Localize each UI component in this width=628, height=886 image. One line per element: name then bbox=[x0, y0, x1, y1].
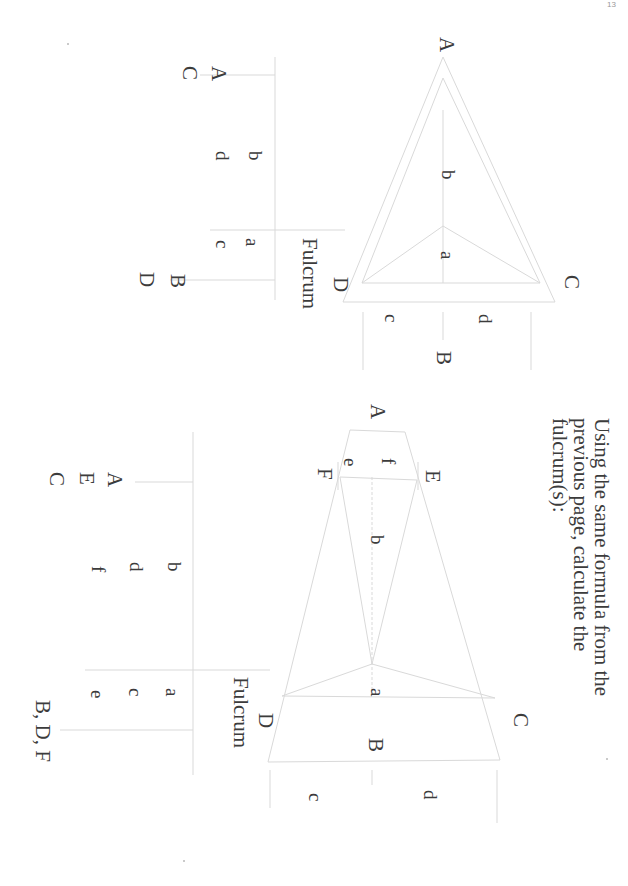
fig2-vertex-B: B bbox=[365, 738, 386, 752]
fig1-vertex-C: C bbox=[561, 275, 582, 289]
fig2-vertex-D: D bbox=[255, 713, 276, 728]
instruction-line-1: Using the same formula from the bbox=[591, 418, 612, 678]
fig1-table-right-top: a bbox=[243, 238, 262, 246]
fig2-table-right-r1: a bbox=[163, 688, 182, 696]
fig1-table-row-A: A bbox=[208, 66, 229, 81]
instruction-line-2: previous page, calculate the bbox=[570, 418, 591, 678]
fig2-table-row-C: C bbox=[46, 472, 67, 486]
fig2-segment-d: d bbox=[421, 790, 440, 800]
fig2-segment-a: a bbox=[368, 688, 387, 696]
fig1-table-right-bottom: c bbox=[213, 240, 232, 248]
fig1-table-row-C: C bbox=[179, 66, 200, 80]
fig2-table-right-r3: e bbox=[88, 690, 107, 698]
fig2-segment-c: c bbox=[306, 793, 325, 801]
instruction-text: Using the same formula from the previous… bbox=[549, 418, 612, 678]
fig2-table-left-r3: f bbox=[89, 566, 108, 572]
fig1-table-left-bottom: d bbox=[213, 151, 232, 161]
fig2-table-right-r2: c bbox=[126, 688, 145, 696]
figure2-trapezoid bbox=[268, 430, 500, 762]
scan-speck bbox=[183, 860, 185, 862]
fig2-table-left-r2: d bbox=[127, 562, 146, 572]
fig2-segment-f: f bbox=[379, 458, 398, 464]
fig1-table-result-B: B bbox=[167, 274, 188, 288]
fig1-table-result-D: D bbox=[136, 272, 157, 287]
instruction-line-3: fulcrum(s): bbox=[549, 418, 570, 678]
scan-speck bbox=[67, 43, 69, 45]
fig2-segment-b: b bbox=[368, 535, 387, 545]
fig1-vertex-B: B bbox=[433, 351, 454, 365]
fig1-segment-a: a bbox=[438, 251, 457, 259]
fig2-segment-e: e bbox=[341, 458, 360, 466]
figure1-outer-triangle bbox=[343, 57, 555, 302]
fig2-table-result: B, D, F bbox=[32, 700, 53, 762]
fig2-table-header-fulcrum: Fulcrum bbox=[230, 677, 251, 748]
scan-speck bbox=[606, 758, 608, 760]
fig2-vertex-A: A bbox=[367, 404, 388, 419]
fig2-vertex-E: E bbox=[422, 470, 443, 483]
fig2-table-left-r1: b bbox=[165, 562, 184, 572]
fig1-segment-d: d bbox=[476, 314, 495, 324]
fig1-vertex-D: D bbox=[330, 277, 351, 292]
fig1-segment-b: b bbox=[439, 170, 458, 180]
diagram-lines bbox=[0, 0, 628, 886]
scanned-page: 13 bbox=[0, 0, 628, 886]
fig1-segment-c: c bbox=[382, 314, 401, 322]
fig1-table-header-fulcrum: Fulcrum bbox=[299, 238, 320, 309]
fig1-vertex-A: A bbox=[436, 37, 457, 52]
fig2-vertex-C: C bbox=[510, 713, 531, 727]
fig2-vertex-F: F bbox=[314, 468, 335, 480]
fig2-table-row-A: A bbox=[104, 472, 125, 487]
fig1-table-left-top: b bbox=[246, 151, 265, 161]
fig2-table-row-E: E bbox=[76, 472, 97, 485]
